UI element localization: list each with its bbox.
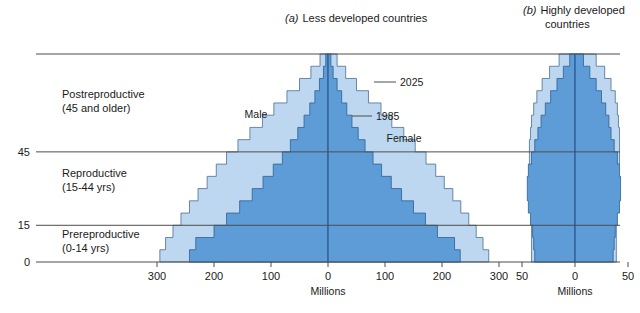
x-tick-label-6: 300 <box>490 270 508 282</box>
x-tick-label-0: 300 <box>148 270 166 282</box>
female-label: Female <box>386 132 421 144</box>
age-tick-0: 0 <box>24 256 30 268</box>
panel-b-axis-label: Millions <box>557 285 592 297</box>
male-label: Male <box>245 108 268 120</box>
x-tick-label-1: 200 <box>205 270 223 282</box>
x-tick-label-2: 50 <box>622 270 634 282</box>
age-tick-45: 45 <box>18 146 30 158</box>
age-category-1-line2: (15-44 yrs) <box>62 181 115 193</box>
chart-canvas: (a)Less developed countries (b)Highly de… <box>0 0 640 313</box>
panel-a-title-text: Less developed countries <box>302 12 427 24</box>
age-category-0-line1: Postreproductive <box>62 88 145 100</box>
x-tick-label-0: 50 <box>516 270 528 282</box>
age-tick-15: 15 <box>18 219 30 231</box>
panel-b-title-line2: countries <box>545 18 590 30</box>
panel-b-title-prefix: (b) <box>523 4 537 16</box>
age-category-2-line2: (0-14 yrs) <box>62 242 109 254</box>
population-pyramid-figure: (a)Less developed countries (b)Highly de… <box>0 0 640 313</box>
series-2025-label: 2025 <box>400 76 424 88</box>
x-tick-label-2: 100 <box>262 270 280 282</box>
age-category-1-line1: Reproductive <box>62 167 127 179</box>
x-tick-label-1: 0 <box>572 270 578 282</box>
x-tick-label-5: 200 <box>433 270 451 282</box>
x-tick-label-4: 100 <box>376 270 394 282</box>
panel-a-title: (a)Less developed countries <box>285 12 428 24</box>
age-category-2-line1: Prereproductive <box>62 228 140 240</box>
series-1985-label: 1985 <box>376 110 400 122</box>
age-category-0-line2: (45 and older) <box>62 102 131 114</box>
panel-a-title-prefix: (a) <box>285 12 299 24</box>
x-tick-label-3: 0 <box>325 270 331 282</box>
panel-b-title-text: Highly developed <box>540 4 624 16</box>
panel-a-axis-label: Millions <box>310 285 345 297</box>
